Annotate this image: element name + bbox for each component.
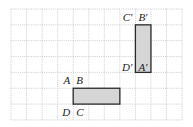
vertex-label: A xyxy=(62,74,70,86)
vertex-label: B xyxy=(76,74,83,86)
rectangle-abcd xyxy=(73,88,120,104)
vertex-label: D′ xyxy=(121,61,133,73)
shapes-layer: ABCDC′B′A′D′ xyxy=(61,11,151,118)
vertex-label: B′ xyxy=(138,11,148,23)
vertex-label: A′ xyxy=(137,61,148,73)
vertex-label: D xyxy=(61,106,70,118)
grid-diagram: ABCDC′B′A′D′ xyxy=(0,0,193,127)
vertex-label: C xyxy=(76,106,84,118)
vertex-label: C′ xyxy=(123,11,133,23)
